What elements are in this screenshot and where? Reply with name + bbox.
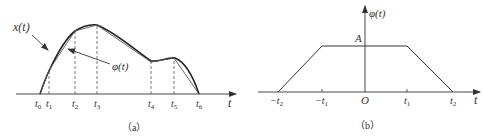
t-axis-label-b: t: [474, 93, 478, 107]
svg-text:t3: t3: [94, 98, 101, 111]
figure: t x(t) φ(t) t0 t1 t2 t3 t4 t5 t6 （a: [0, 0, 483, 138]
svg-text:t2: t2: [72, 98, 79, 111]
phi-label: φ(t): [112, 60, 129, 73]
svg-text:t0: t0: [35, 98, 42, 111]
phi-axis-label: φ(t): [369, 7, 386, 20]
origin-O: O: [361, 94, 369, 106]
svg-text:t2: t2: [450, 95, 457, 108]
svg-text:−t2: −t2: [270, 95, 284, 108]
phi-label-arrow: [68, 49, 110, 64]
svg-text:−t1: −t1: [315, 95, 329, 108]
svg-text:t1: t1: [404, 95, 411, 108]
svg-text:t1: t1: [46, 98, 53, 111]
panel-b: t φ(t) A O −t2 −t1 t1 t2 （b）: [258, 6, 480, 131]
panel-a: t x(t) φ(t) t0 t1 t2 t3 t4 t5 t6 （a: [12, 20, 236, 133]
caption-b: （b）: [355, 120, 380, 131]
svg-text:t4: t4: [148, 98, 155, 111]
caption-a: （a）: [122, 122, 146, 133]
svg-text:t5: t5: [171, 98, 178, 111]
svg-text:t6: t6: [196, 98, 203, 111]
x-label-arrow: [32, 35, 48, 50]
level-A: A: [354, 32, 362, 44]
x-label: x(t): [12, 20, 30, 34]
t-axis-label: t: [228, 96, 232, 110]
tick-labels-a: t0 t1 t2 t3 t4 t5 t6: [35, 98, 203, 111]
trapezoid-phi: [278, 46, 453, 92]
